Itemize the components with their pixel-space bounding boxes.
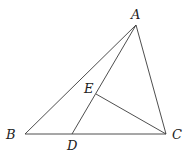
point-labels: A B C D E [5,7,182,153]
segment-ec [96,94,166,134]
geometry-diagram: A B C D E [0,0,193,154]
label-e: E [83,81,94,96]
label-b: B [5,127,16,142]
segments [25,25,166,134]
segment-ad [72,25,136,134]
segment-ab [25,25,136,134]
segment-ac [136,25,166,134]
label-c: C [172,127,182,142]
label-d: D [66,138,78,153]
label-a: A [130,7,140,22]
